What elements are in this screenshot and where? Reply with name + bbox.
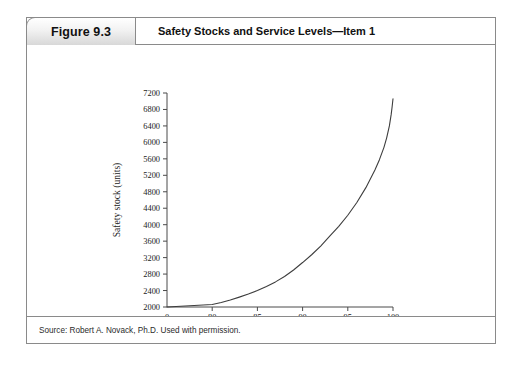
y-axis-tick-label: 6400 xyxy=(143,122,160,131)
figure-header: Figure 9.3 Safety Stocks and Service Lev… xyxy=(27,18,495,45)
figure-number-label: Figure 9.3 xyxy=(51,25,111,39)
y-axis-tick-label: 4800 xyxy=(143,188,160,197)
y-axis-title: Safety stock (units) xyxy=(111,163,123,238)
figure-title-cell: Safety Stocks and Service Levels—Item 1 xyxy=(136,18,495,44)
chart-svg: 2000240028003200360040004400480052005600… xyxy=(27,45,495,317)
figure-number-cell: Figure 9.3 xyxy=(26,17,136,45)
y-axis-tick-label: 2000 xyxy=(143,303,160,312)
figure-source-row: Source: Robert A. Novack, Ph.D. Used wit… xyxy=(27,317,495,343)
x-axis-tick-label: 100 xyxy=(387,313,400,317)
x-axis-tick-label: 90 xyxy=(298,313,306,317)
x-axis-tick-label: 0 xyxy=(165,313,169,317)
x-axis-tick-label: 85 xyxy=(253,313,261,317)
y-axis-tick-label: 3200 xyxy=(143,254,160,263)
y-axis-tick-label: 5200 xyxy=(143,171,160,180)
figure-source-text: Source: Robert A. Novack, Ph.D. Used wit… xyxy=(39,326,241,335)
safety-stock-curve xyxy=(167,99,393,307)
y-axis-tick-label: 6000 xyxy=(143,138,160,147)
y-axis-tick-label: 2800 xyxy=(143,270,160,279)
figure-box: Figure 9.3 Safety Stocks and Service Lev… xyxy=(26,17,496,344)
x-axis-tick-group: 080859095100 xyxy=(165,307,399,317)
figure-title-label: Safety Stocks and Service Levels—Item 1 xyxy=(158,25,375,37)
y-axis-tick-label: 4000 xyxy=(143,221,160,230)
x-axis-tick-label: 95 xyxy=(344,313,352,317)
chart-plot-area: 2000240028003200360040004400480052005600… xyxy=(27,45,495,317)
y-axis-tick-label: 2400 xyxy=(143,287,160,296)
y-axis-tick-label: 7200 xyxy=(143,89,160,98)
x-axis-tick-label: 80 xyxy=(208,313,216,317)
y-axis-tick-label: 3600 xyxy=(143,237,160,246)
y-axis-tick-label: 4400 xyxy=(143,204,160,213)
y-axis-tick-label: 5600 xyxy=(143,155,160,164)
y-axis-tick-label: 6800 xyxy=(143,105,160,114)
y-axis-tick-group: 2000240028003200360040004400480052005600… xyxy=(143,89,167,312)
